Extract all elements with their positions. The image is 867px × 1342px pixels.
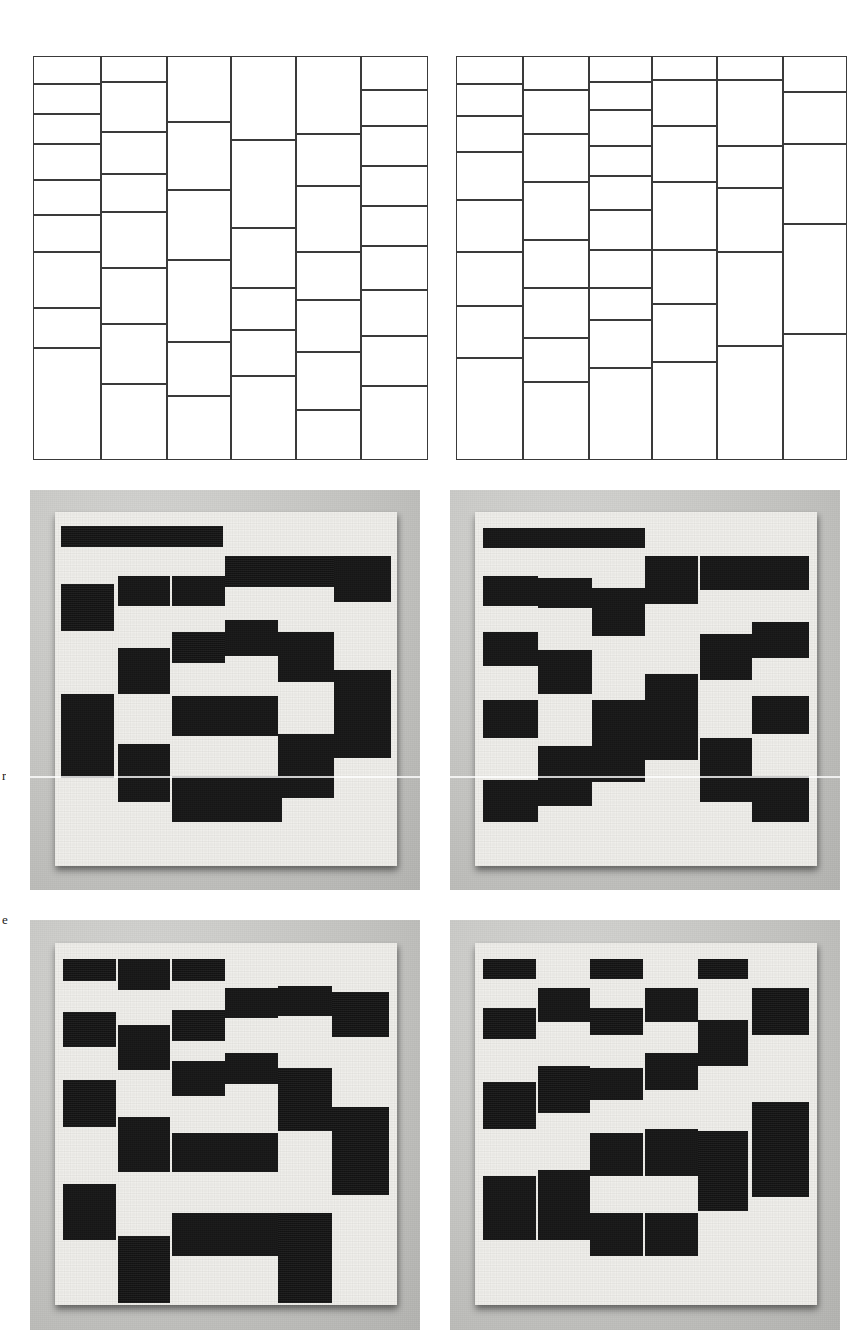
diagram-cell	[33, 180, 101, 215]
diagram-column	[652, 56, 717, 460]
diagram-cell	[33, 252, 101, 308]
diagram-cell	[652, 250, 717, 304]
black-tile	[172, 696, 225, 736]
diagram-cell	[523, 56, 589, 90]
diagram-cell	[523, 182, 589, 240]
black-tile	[592, 528, 645, 548]
diagram-cell	[589, 210, 652, 250]
black-tile	[61, 584, 114, 631]
black-tile	[592, 700, 645, 782]
diagram-cell	[717, 252, 783, 346]
diagram-cell	[783, 224, 847, 334]
black-tile	[590, 1068, 643, 1101]
diagram-cell	[101, 174, 167, 212]
diagram-cell	[296, 352, 361, 410]
diagram-cell	[783, 92, 847, 144]
diagram-cell	[523, 338, 589, 382]
diagram-cell	[523, 382, 589, 460]
black-tile	[590, 959, 643, 980]
diagram-cell	[361, 166, 428, 206]
black-tile	[225, 776, 282, 822]
margin-letter-lower: e	[2, 912, 8, 928]
black-tile	[698, 959, 749, 980]
diagram-cell	[456, 116, 523, 152]
diagram-cell	[783, 334, 847, 460]
diagram-cell	[361, 56, 428, 90]
black-tile	[278, 1213, 333, 1303]
black-tile	[752, 776, 809, 822]
black-tile	[590, 1133, 643, 1176]
black-tile	[172, 776, 225, 822]
diagram-cell	[456, 200, 523, 252]
black-tile	[645, 556, 698, 604]
diagram-cell	[101, 56, 167, 82]
black-tile	[592, 588, 645, 636]
diagram-cell	[361, 90, 428, 126]
black-tile	[172, 959, 225, 982]
diagram-column	[167, 56, 231, 460]
diagram-column	[717, 56, 783, 460]
black-tile	[483, 1082, 536, 1129]
diagram-cell	[296, 410, 361, 460]
diagram-cell	[361, 290, 428, 336]
diagram-cell	[101, 212, 167, 268]
black-tile	[172, 1213, 225, 1256]
black-tile	[172, 1061, 225, 1096]
diagram-cell	[652, 182, 717, 250]
black-tile	[63, 1080, 116, 1127]
diagram-column	[361, 56, 428, 460]
diagram-cell	[231, 140, 296, 228]
photo-middle-left	[30, 490, 420, 890]
black-tile	[483, 632, 538, 666]
diagram-column	[589, 56, 652, 460]
black-tile	[172, 1010, 225, 1041]
black-tile	[700, 738, 753, 802]
diagram-cell	[456, 152, 523, 200]
black-tile	[278, 556, 335, 587]
diagram-cell	[589, 250, 652, 288]
diagram-cell	[101, 82, 167, 132]
diagram-cell	[33, 144, 101, 180]
diagram-cell	[783, 144, 847, 224]
black-tile	[590, 1008, 643, 1035]
diagram-cell	[101, 324, 167, 384]
black-tile	[118, 1117, 171, 1172]
black-tile	[590, 1213, 643, 1256]
black-tile	[483, 1008, 536, 1039]
black-tile	[118, 959, 171, 990]
diagram-column	[101, 56, 167, 460]
black-tile	[698, 1020, 749, 1065]
black-tile	[483, 528, 538, 548]
diagram-cell	[589, 82, 652, 110]
black-tile	[118, 648, 171, 694]
diagram-cell	[296, 252, 361, 300]
diagram-cell	[717, 56, 783, 80]
diagram-column	[33, 56, 101, 460]
photo-bottom-right	[450, 920, 840, 1330]
diagram-column	[523, 56, 589, 460]
black-tile	[752, 1102, 809, 1196]
black-tile	[225, 620, 278, 656]
diagram-cell	[361, 206, 428, 246]
black-tile	[483, 1176, 536, 1240]
diagram-cell	[33, 348, 101, 460]
diagram-top-right	[456, 56, 847, 460]
diagram-cell	[589, 320, 652, 368]
black-tile	[334, 556, 391, 602]
black-tile	[225, 988, 278, 1019]
black-tile	[114, 526, 171, 547]
diagram-cell	[33, 114, 101, 144]
diagram-cell	[296, 56, 361, 134]
black-tile	[483, 959, 536, 980]
diagram-cell	[717, 80, 783, 146]
diagram-cell	[167, 190, 231, 260]
diagram-cell	[101, 384, 167, 460]
black-tile	[118, 744, 171, 802]
diagram-cell	[523, 288, 589, 338]
black-tile	[483, 576, 538, 606]
black-tile	[645, 1129, 698, 1176]
black-tile	[538, 988, 591, 1023]
diagram-cell	[167, 260, 231, 342]
diagram-cell	[231, 330, 296, 376]
black-tile	[538, 746, 593, 806]
